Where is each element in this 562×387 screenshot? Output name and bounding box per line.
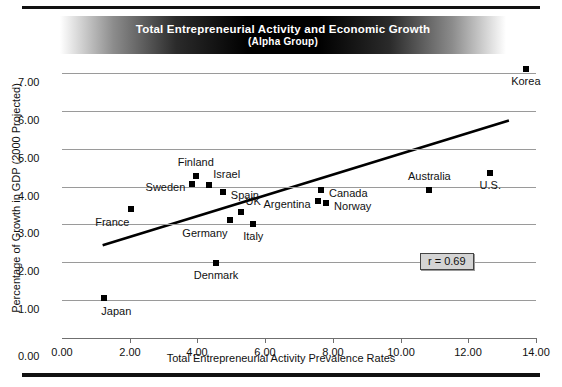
- data-point-label: Denmark: [194, 269, 239, 281]
- data-point-label: Israel: [213, 168, 240, 180]
- y-tick-label: 1.00: [18, 303, 58, 315]
- y-tick-label: 6.00: [18, 114, 58, 126]
- data-point: [426, 187, 432, 193]
- x-tick-mark: [130, 338, 131, 343]
- data-point: [101, 295, 107, 301]
- data-point: [238, 209, 244, 215]
- data-point-label: France: [62, 216, 129, 228]
- y-tick-label: 2.00: [18, 265, 58, 277]
- x-tick-mark: [265, 338, 266, 343]
- data-point-label: Sweden: [62, 181, 185, 193]
- data-point-label: Finland: [178, 156, 214, 168]
- data-point: [318, 187, 324, 193]
- data-point: [315, 198, 321, 204]
- y-gridline: [62, 111, 536, 112]
- x-axis-title: Total Entrepreneurial Activity Prevalenc…: [0, 352, 562, 364]
- y-gridline: [62, 300, 536, 301]
- x-tick-mark: [468, 338, 469, 343]
- y-tick-label: 7.00: [18, 76, 58, 88]
- data-point: [189, 181, 195, 187]
- data-point: [193, 173, 199, 179]
- y-tick-label: 5.00: [18, 152, 58, 164]
- chart-page: Total Entrepreneurial Activity and Econo…: [0, 0, 562, 387]
- plot-area: 1.002.003.004.005.006.007.000.002.004.00…: [62, 58, 536, 338]
- x-tick-mark: [197, 338, 198, 343]
- data-point-label: Germany: [62, 227, 228, 239]
- data-point-label: Argentina: [62, 198, 311, 210]
- data-point-label: Japan: [101, 305, 131, 317]
- data-point-label: Korea: [511, 75, 540, 87]
- data-point-label: Canada: [329, 187, 368, 199]
- data-point: [250, 221, 256, 227]
- chart-title: Total Entrepreneurial Activity and Econo…: [136, 23, 430, 36]
- data-point-label: Norway: [334, 200, 371, 212]
- x-axis-line: [62, 338, 536, 339]
- data-point-label: Australia: [408, 170, 451, 182]
- x-tick-mark: [536, 338, 537, 343]
- chart-subtitle: (Alpha Group): [248, 36, 318, 47]
- data-point-label: Italy: [243, 230, 263, 242]
- data-point: [523, 66, 529, 72]
- data-point-label: U.S.: [480, 179, 501, 191]
- y-gridline: [62, 149, 536, 150]
- data-point: [206, 182, 212, 188]
- y-gridline: [62, 224, 536, 225]
- correlation-annotation: r = 0.69: [420, 253, 474, 270]
- x-tick-mark: [333, 338, 334, 343]
- title-banner: Total Entrepreneurial Activity and Econo…: [60, 16, 506, 54]
- data-point: [220, 189, 226, 195]
- y-tick-label: 3.00: [18, 227, 58, 239]
- data-point: [227, 217, 233, 223]
- bottom-rule: [22, 372, 540, 377]
- data-point: [487, 170, 493, 176]
- top-rule: [22, 6, 540, 9]
- x-tick-mark: [401, 338, 402, 343]
- data-point: [213, 260, 219, 266]
- y-gridline: [62, 73, 536, 74]
- data-point: [323, 200, 329, 206]
- y-tick-label: 4.00: [18, 190, 58, 202]
